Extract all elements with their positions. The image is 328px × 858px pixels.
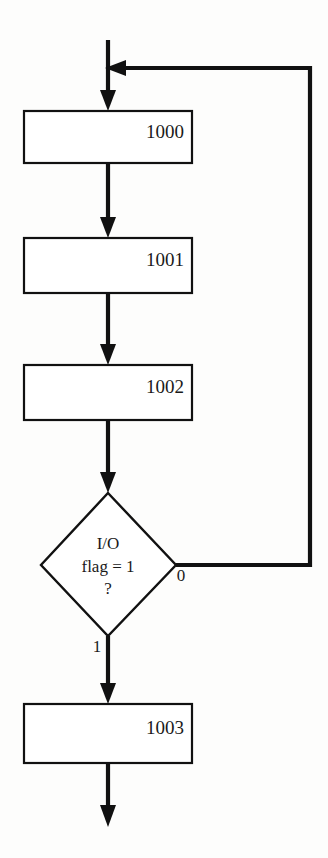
process-box-1003-label: 1003 [146,717,184,738]
branch-label-false: 0 [177,566,186,585]
process-box-1002[interactable]: 1002 [24,365,192,420]
process-box-1002-label: 1002 [146,376,184,397]
process-box-1003[interactable]: 1003 [24,704,192,763]
decision-line-1: I/O [97,534,120,553]
process-box-1000-label: 1000 [146,121,184,142]
decision-line-2: flag = 1 [81,557,134,576]
decision-node-io-flag[interactable]: I/O flag = 1 ? [41,493,176,636]
process-box-1001-label: 1001 [146,249,184,270]
decision-line-3: ? [104,579,112,598]
edge-1002-to-decision [100,420,116,493]
process-box-1001[interactable]: 1001 [24,238,192,293]
edge-decision-1003-head [100,683,116,704]
edge-1002-decision-head [100,472,116,493]
edge-1000-to-1001 [100,163,116,238]
edge-1001-1002-head [100,344,116,365]
branch-label-true: 1 [93,637,102,656]
edge-1001-to-1002 [100,293,116,365]
entry-arrow-head [100,90,116,111]
exit-arrow-head [100,805,116,827]
flowchart-canvas: 1000 1001 1002 I/O [0,0,328,858]
edge-decision-to-1003 [100,636,116,704]
edge-1003-to-exit [100,763,116,827]
process-box-1000[interactable]: 1000 [24,111,192,163]
edge-1000-1001-head [100,217,116,238]
edge-entry-to-1000 [100,40,116,111]
flowchart-svg: 1000 1001 1002 I/O [0,0,328,858]
